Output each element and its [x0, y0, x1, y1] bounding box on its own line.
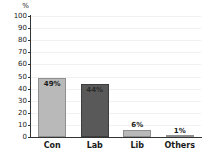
gridline — [31, 52, 201, 53]
x-axis-label-lib: Lib — [115, 141, 159, 151]
y-axis-tick-mark — [28, 40, 30, 41]
y-axis-unit-label: % — [0, 2, 29, 10]
y-axis-tick-mark — [28, 77, 30, 78]
y-axis-tick-mark — [28, 101, 30, 102]
bar-chart: % 0102030405060708090100 ConLabLibOthers… — [0, 0, 205, 167]
gridline — [31, 16, 201, 17]
y-axis-tick-mark — [28, 64, 30, 65]
y-axis-tick-label: 10 — [0, 121, 27, 129]
y-axis-tick-label: 90 — [0, 24, 27, 32]
y-axis-tick-label: 80 — [0, 36, 27, 44]
gridline — [31, 40, 201, 41]
bar-others — [166, 135, 194, 137]
y-axis-tick-mark — [28, 52, 30, 53]
y-axis-tick-mark — [28, 16, 30, 17]
x-axis-label-lab: Lab — [73, 141, 117, 151]
y-axis-tick-mark — [28, 137, 30, 138]
gridline — [31, 28, 201, 29]
y-axis-tick-label: 30 — [0, 97, 27, 105]
x-axis-line — [30, 137, 202, 138]
y-axis-tick-label: 20 — [0, 109, 27, 117]
y-axis-tick-mark — [28, 113, 30, 114]
x-axis-label-others: Others — [158, 141, 202, 151]
y-axis-tick-label: 50 — [0, 73, 27, 81]
y-axis-tick-label: 60 — [0, 60, 27, 68]
data-label-con: 49% — [35, 80, 69, 88]
y-axis-tick-label: 0 — [0, 133, 27, 141]
bar-lib — [123, 130, 151, 137]
data-label-lab: 44% — [78, 86, 112, 94]
data-label-others: 1% — [163, 127, 197, 135]
x-axis-label-con: Con — [30, 141, 74, 151]
y-axis-tick-mark — [28, 125, 30, 126]
gridline — [31, 64, 201, 65]
y-axis-tick-label: 100 — [0, 12, 27, 20]
plot-area — [31, 16, 201, 137]
y-axis-tick-mark — [28, 89, 30, 90]
y-axis-tick-label: 40 — [0, 85, 27, 93]
data-label-lib: 6% — [120, 121, 154, 129]
y-axis-tick-label: 70 — [0, 48, 27, 56]
y-axis-tick-mark — [28, 28, 30, 29]
